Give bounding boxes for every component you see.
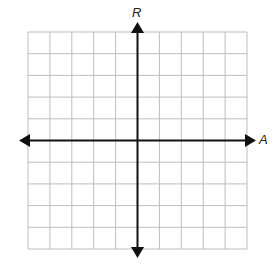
arrow-left-icon: [19, 134, 30, 147]
arrow-up-icon: [131, 22, 144, 33]
arrow-down-icon: [131, 247, 144, 258]
vertical-axis-label: R: [132, 5, 141, 20]
arrow-right-icon: [245, 134, 256, 147]
coordinate-grid: [0, 0, 278, 270]
horizontal-axis-label: A: [259, 132, 268, 147]
